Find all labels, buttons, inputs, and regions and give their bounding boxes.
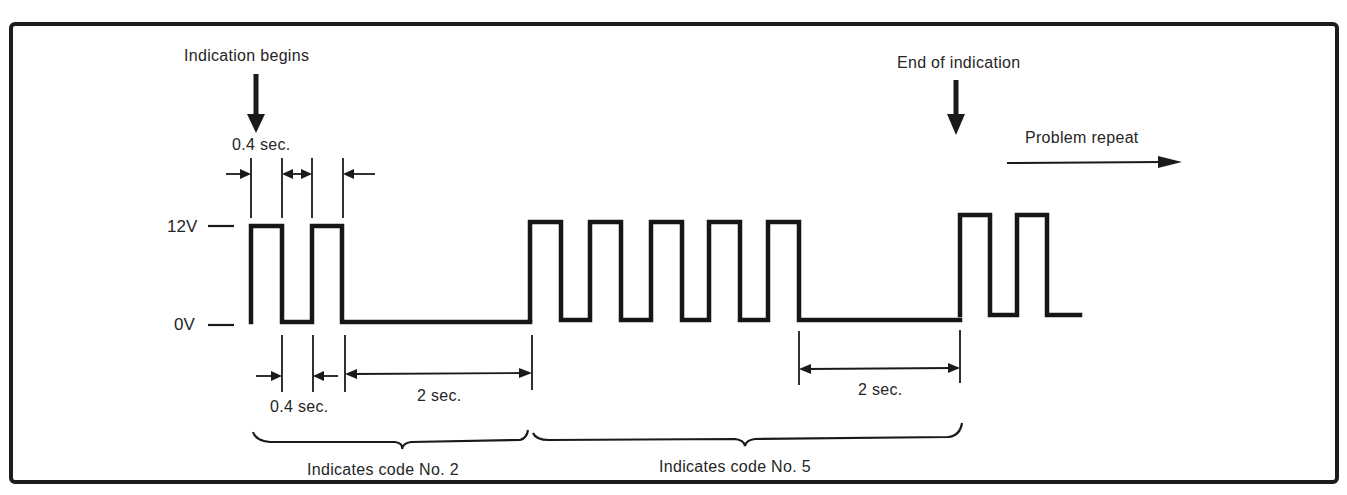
code-5-brace bbox=[533, 423, 962, 446]
diagram-frame bbox=[11, 24, 1337, 482]
repeat-pulses bbox=[960, 215, 1080, 315]
bottom-gap-width-label: 0.4 sec. bbox=[270, 398, 328, 415]
indication-begins-arrow-icon bbox=[247, 74, 265, 133]
pulse-waveform bbox=[251, 215, 1080, 322]
end-of-indication-label: End of indication bbox=[897, 54, 1020, 71]
diagnostic-code-timing-diagram: Indication begins End of indication Prob… bbox=[0, 0, 1347, 495]
code-5-pulses bbox=[530, 222, 960, 320]
code-2-label: Indicates code No. 2 bbox=[307, 461, 459, 478]
voltage-low-label: 0V bbox=[174, 315, 195, 334]
pause-2-label: 2 sec. bbox=[858, 381, 903, 398]
problem-repeat-arrow-icon bbox=[1007, 156, 1182, 168]
indication-begins-label: Indication begins bbox=[184, 47, 309, 64]
code-2-brace bbox=[253, 430, 528, 449]
bottom-dimension-lines bbox=[256, 330, 960, 392]
code-2-pulses bbox=[251, 226, 530, 322]
pause-1-label: 2 sec. bbox=[417, 387, 462, 404]
voltage-high-label: 12V bbox=[167, 217, 198, 236]
top-dimension-lines bbox=[226, 158, 375, 218]
top-pulse-width-label: 0.4 sec. bbox=[232, 136, 290, 153]
problem-repeat-label: Problem repeat bbox=[1025, 129, 1139, 146]
code-5-label: Indicates code No. 5 bbox=[659, 458, 811, 475]
end-of-indication-arrow-icon bbox=[947, 80, 965, 135]
